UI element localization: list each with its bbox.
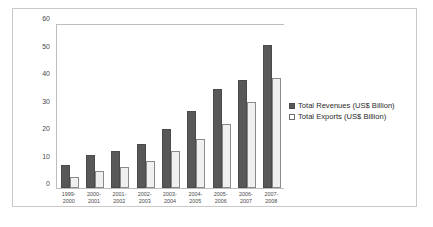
bar-group: [184, 25, 209, 188]
bar-group: [260, 25, 285, 188]
bar-total-exports: [171, 151, 180, 188]
bar-total-revenues: [213, 89, 222, 188]
legend-swatch-exports-icon: [289, 114, 295, 120]
bar-total-revenues: [61, 165, 70, 188]
y-axis-tick-label: 40: [42, 70, 50, 77]
bar-total-exports: [196, 139, 205, 188]
y-axis-tick-label: 0: [46, 180, 50, 187]
x-axis-tick-label: 2006- 2007: [239, 191, 253, 205]
bar-group: [158, 25, 183, 188]
bar-total-revenues: [86, 155, 95, 188]
bar-total-exports: [272, 78, 281, 188]
bar-total-exports: [120, 167, 129, 188]
legend-item-exports: Total Exports (US$ Billion): [289, 112, 417, 121]
x-axis: 1999- 20002000- 20012001- 20022002- 2003…: [56, 191, 284, 213]
bar-total-revenues: [238, 80, 247, 188]
y-axis-tick-label: 60: [42, 15, 50, 22]
bar-total-revenues: [137, 144, 146, 188]
y-axis: 0102030405060: [27, 18, 53, 183]
y-axis-tick-label: 20: [42, 125, 50, 132]
x-axis-tick-label: 2000- 2001: [87, 191, 101, 205]
plot-area: [56, 24, 284, 189]
chart-legend: Total Revenues (US$ Billion) Total Expor…: [289, 101, 417, 123]
bar-total-exports: [247, 102, 256, 188]
x-axis-tick-label: 2003- 2004: [163, 191, 177, 205]
x-axis-tick-label: 2001- 2002: [112, 191, 126, 205]
bar-group: [209, 25, 234, 188]
bars-container: [57, 25, 284, 188]
x-axis-tick-label: 1999- 2000: [62, 191, 76, 205]
bar-total-revenues: [187, 111, 196, 188]
x-axis-tick-label: 2002- 2003: [138, 191, 152, 205]
bar-total-exports: [146, 161, 155, 188]
legend-item-revenues: Total Revenues (US$ Billion): [289, 101, 417, 110]
y-axis-tick-label: 50: [42, 42, 50, 49]
legend-label-revenues: Total Revenues (US$ Billion): [298, 101, 395, 110]
bar-total-revenues: [263, 45, 272, 188]
y-axis-tick-label: 10: [42, 152, 50, 159]
bar-group: [108, 25, 133, 188]
bar-total-exports: [95, 171, 104, 188]
y-axis-tick-label: 30: [42, 97, 50, 104]
bar-group: [57, 25, 82, 188]
bar-group: [82, 25, 107, 188]
bar-total-exports: [70, 177, 79, 188]
bar-total-revenues: [162, 129, 171, 188]
chart-frame: 0102030405060 1999- 20002000- 20012001- …: [12, 8, 417, 207]
legend-swatch-revenues-icon: [289, 103, 295, 109]
bar-group: [234, 25, 259, 188]
bar-total-exports: [222, 124, 231, 188]
x-axis-tick-label: 2005- 2006: [214, 191, 228, 205]
bar-group: [133, 25, 158, 188]
x-axis-tick-label: 2007- 2008: [264, 191, 278, 205]
bar-total-revenues: [111, 151, 120, 188]
legend-label-exports: Total Exports (US$ Billion): [298, 112, 386, 121]
x-axis-tick-label: 2004- 2005: [188, 191, 202, 205]
